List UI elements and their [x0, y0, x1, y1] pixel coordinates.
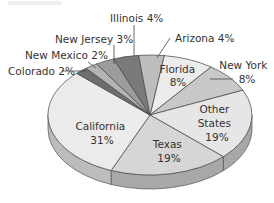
label-other-states-line1: Other [199, 103, 229, 115]
label-california-name: California [75, 120, 125, 132]
label-new-york-name: New York [219, 59, 268, 71]
label-california-value: 31% [90, 134, 113, 146]
leader-arizona [157, 38, 170, 58]
label-illinois: Illinois 4% [110, 12, 163, 24]
label-texas-name: Texas [152, 138, 182, 150]
pie-slices [48, 55, 252, 175]
pie-chart: Illinois 4% Arizona 4% New Jersey 3% New… [0, 0, 274, 203]
label-new-jersey: New Jersey 3% [55, 33, 133, 45]
label-colorado: Colorado 2% [8, 65, 75, 77]
label-new-york-value: 8% [239, 73, 256, 85]
label-florida-value: 8% [170, 76, 187, 88]
label-other-states-line2: States [198, 117, 231, 129]
label-texas-value: 19% [157, 152, 180, 164]
label-arizona: Arizona 4% [175, 32, 234, 44]
label-other-states-value: 19% [205, 131, 228, 143]
label-florida-name: Florida [159, 63, 195, 75]
label-new-mexico: New Mexico 2% [25, 49, 108, 61]
